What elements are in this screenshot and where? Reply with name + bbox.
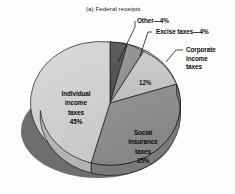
slice-value-social-insurance: 35% <box>119 156 167 165</box>
federal-receipts-pie-chart: (a) Federal receipts Other—4% Excise tax… <box>0 0 235 194</box>
slice-label-individual-line1: Individual <box>52 89 100 98</box>
slice-label-corporate-line3: taxes <box>186 63 230 72</box>
slice-label-individual-line3: taxes <box>52 108 100 117</box>
slice-label-excise: Excise taxes—4% <box>156 28 209 35</box>
slice-label-social-insurance: Social insurance taxes 35% <box>119 128 167 165</box>
slice-label-corporate-line1: Corporate <box>186 46 230 55</box>
slice-label-corporate-line2: income <box>186 55 230 64</box>
chart-title: (a) Federal receipts <box>86 6 141 13</box>
slice-label-social-line1: Social <box>119 128 167 137</box>
slice-label-individual: Individual income taxes 45% <box>52 89 100 126</box>
leader-line-corporate <box>166 50 183 62</box>
slice-label-social-line2: insurance <box>119 137 167 146</box>
slice-value-individual: 45% <box>52 117 100 126</box>
slice-label-other: Other—4% <box>137 17 169 24</box>
slice-value-corporate: 12% <box>139 79 151 86</box>
slice-label-social-line3: taxes <box>119 147 167 156</box>
slice-label-individual-line2: income <box>52 98 100 107</box>
slice-label-corporate: Corporate income taxes <box>186 46 230 72</box>
